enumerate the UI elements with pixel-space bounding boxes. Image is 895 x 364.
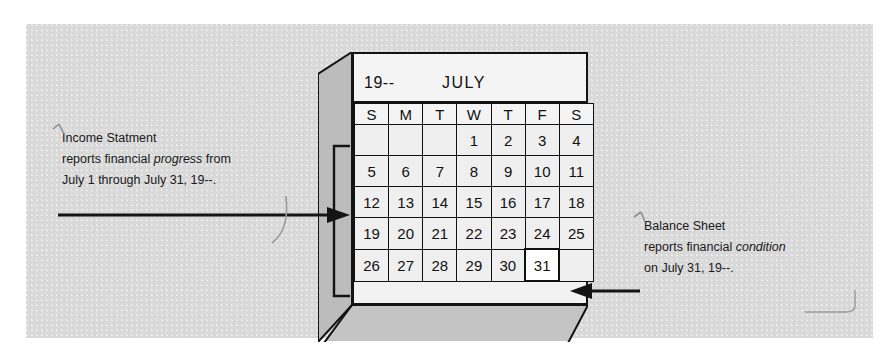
balance-sheet-annotation: Balance Sheet reports financial conditio… (644, 216, 786, 279)
calendar-day-cell: 8 (457, 156, 491, 187)
calendar-day-cell (559, 249, 593, 281)
calendar-bottom-face (318, 303, 588, 343)
calendar-day-cell: 16 (491, 187, 525, 218)
calendar-year-label: 19-- (364, 74, 394, 92)
calendar-day-cell: 10 (525, 156, 559, 187)
calendar-grid: S M T W T F S 1 2 (354, 103, 594, 282)
calendar-day-cell (355, 125, 389, 156)
calendar-day-cell: 17 (525, 187, 559, 218)
weekday-header-wed: W (457, 104, 491, 125)
calendar-day-cell: 1 (457, 125, 491, 156)
balance-sheet-line2: reports financial condition (644, 237, 786, 258)
calendar-day-cell: 26 (355, 249, 389, 281)
calendar-day-cell: 5 (355, 156, 389, 187)
calendar-day-cell: 14 (423, 187, 457, 218)
calendar-day-cell: 25 (559, 218, 593, 250)
income-statement-line2: reports financial progress from (62, 149, 231, 170)
calendar-day-cell: 21 (423, 218, 457, 250)
calendar-day-cell: 24 (525, 218, 559, 250)
calendar-block: 19-- JULY S M T W T F S (318, 52, 588, 342)
calendar-weekday-header-row: S M T W T F S (355, 104, 594, 125)
calendar-day-cell: 11 (559, 156, 593, 187)
balance-sheet-title: Balance Sheet (644, 216, 786, 237)
calendar-day-cell: 2 (491, 125, 525, 156)
calendar-day-cell: 12 (355, 187, 389, 218)
weekday-header-tue: T (423, 104, 457, 125)
income-statement-emphasis: progress (154, 152, 203, 166)
calendar-week-row: 26 27 28 29 30 31 (355, 249, 594, 281)
calendar-day-cell: 6 (389, 156, 423, 187)
calendar-day-cell: 23 (491, 218, 525, 250)
calendar-day-cell: 30 (491, 249, 525, 281)
calendar-day-cell: 29 (457, 249, 491, 281)
income-statement-title: Income Statment (62, 128, 231, 149)
calendar-week-row: 19 20 21 22 23 24 25 (355, 218, 594, 250)
weekday-header-sun: S (355, 104, 389, 125)
calendar-day-cell: 9 (491, 156, 525, 187)
balance-sheet-emphasis: condition (736, 240, 786, 254)
balance-sheet-line3: on July 31, 19--. (644, 258, 786, 279)
calendar-day-cell-highlighted: 31 (525, 249, 559, 281)
weekday-header-sat: S (559, 104, 593, 125)
weekday-header-thu: T (491, 104, 525, 125)
calendar-day-cell (423, 125, 457, 156)
calendar-day-cell: 3 (525, 125, 559, 156)
income-statement-annotation: Income Statment reports financial progre… (62, 128, 231, 191)
balance-sheet-line2-pre: reports financial (644, 240, 736, 254)
weekday-header-fri: F (525, 104, 559, 125)
calendar-day-cell: 18 (559, 187, 593, 218)
calendar-day-cell: 13 (389, 187, 423, 218)
calendar-week-row: 1 2 3 4 (355, 125, 594, 156)
calendar-month-label: JULY (442, 74, 486, 92)
calendar-week-row: 12 13 14 15 16 17 18 (355, 187, 594, 218)
calendar-week-row: 5 6 7 8 9 10 11 (355, 156, 594, 187)
income-statement-line3: July 1 through July 31, 19--. (62, 170, 231, 191)
weekday-header-mon: M (389, 104, 423, 125)
calendar-day-cell: 20 (389, 218, 423, 250)
calendar-day-cell (389, 125, 423, 156)
calendar-front-face: 19-- JULY S M T W T F S (352, 52, 588, 305)
calendar-day-cell: 22 (457, 218, 491, 250)
calendar-day-cell: 15 (457, 187, 491, 218)
calendar-day-cell: 4 (559, 125, 593, 156)
income-statement-line2-pre: reports financial (62, 152, 154, 166)
calendar-day-cell: 28 (423, 249, 457, 281)
calendar-day-cell: 27 (389, 249, 423, 281)
calendar-day-cell: 19 (355, 218, 389, 250)
calendar-title-bar: 19-- JULY (354, 54, 586, 103)
figure-root: 19-- JULY S M T W T F S (0, 0, 895, 364)
income-statement-line2-post: from (202, 152, 230, 166)
calendar-day-cell: 7 (423, 156, 457, 187)
